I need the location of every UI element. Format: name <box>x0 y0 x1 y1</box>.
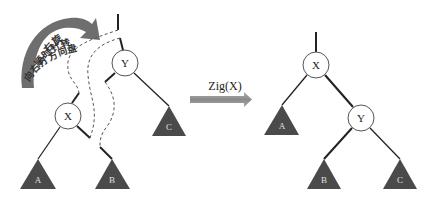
before-tree: Y X A B C <box>20 14 186 189</box>
before-subtree-c: C <box>152 106 186 136</box>
before-b-upper-edge <box>100 147 112 159</box>
before-node-x-label: X <box>64 110 72 122</box>
dashed-cut-outer <box>68 30 118 93</box>
after-subtree-b: B <box>307 159 341 189</box>
after-tree: X Y A B C <box>264 32 417 189</box>
after-x-a-edge <box>282 75 307 105</box>
before-y-c-edge <box>134 73 169 106</box>
before-node-y: Y <box>112 50 138 76</box>
right-arrow-icon <box>190 92 252 107</box>
zig-operation-label: Zig(X) <box>208 79 241 93</box>
dashed-cut-inner <box>100 82 114 147</box>
before-subtree-b-label: B <box>109 175 115 185</box>
before-y-left-edge <box>105 73 115 82</box>
before-node-y-label: Y <box>121 57 129 69</box>
after-subtree-c-label: C <box>397 175 403 185</box>
before-x-right-edge <box>77 126 90 138</box>
after-subtree-a-label: A <box>279 121 286 131</box>
after-node-y: Y <box>348 105 374 131</box>
after-node-x: X <box>303 52 329 78</box>
before-subtree-a: A <box>20 159 56 189</box>
after-y-b-edge <box>324 128 352 159</box>
before-x-a-edge <box>38 127 60 159</box>
after-subtree-b-label: B <box>321 175 327 185</box>
after-x-y-edge <box>325 75 353 107</box>
dashed-cut-middle <box>88 38 120 138</box>
after-node-y-label: Y <box>357 112 365 124</box>
after-subtree-c: C <box>383 159 417 189</box>
before-subtree-c-label: C <box>166 122 172 132</box>
zig-rotation-diagram: 右旋 顺时针转 向右打方向盘 Y <box>0 0 429 197</box>
before-subtree-b: B <box>95 159 130 189</box>
after-node-x-label: X <box>312 59 320 71</box>
after-y-c-edge <box>370 128 400 159</box>
zig-operation-arrow: Zig(X) <box>190 79 252 107</box>
before-subtree-a-label: A <box>35 175 42 185</box>
before-y-upper-edge <box>120 38 123 50</box>
before-node-x: X <box>55 103 81 129</box>
after-subtree-a: A <box>264 105 299 135</box>
before-x-upper-edge <box>72 93 79 103</box>
